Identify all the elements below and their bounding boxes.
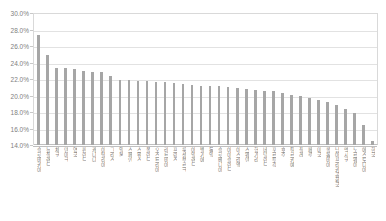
bar[interactable] (227, 87, 230, 145)
x-axis-tick-label: 캐나다 (90, 147, 96, 162)
y-axis-tick-label: 20.0% (11, 92, 29, 99)
x-axis-tick-label: 그리스 (108, 147, 114, 162)
y-axis-tick-label: 22.0% (11, 76, 29, 83)
x-axis-tick-label: 미국 (316, 147, 322, 157)
bar-slot (179, 13, 188, 145)
y-axis-tick-label: 30.0% (11, 10, 29, 17)
bar[interactable] (100, 72, 103, 145)
y-axis-tick-label: 18.0% (11, 109, 29, 116)
bar-slot (52, 13, 61, 145)
bar-slot (115, 13, 124, 145)
bar-series (33, 13, 378, 145)
bar[interactable] (218, 86, 221, 145)
x-axis-tick-label: 페루 (307, 147, 313, 157)
bar-slot (188, 13, 197, 145)
x-axis-tick-label: 튀르키예 (289, 147, 295, 167)
bar[interactable] (119, 80, 122, 145)
bar[interactable] (137, 81, 140, 145)
bar[interactable] (173, 83, 176, 145)
bar[interactable] (254, 90, 257, 145)
x-axis-tick-label: 체코 (54, 147, 60, 157)
bar[interactable] (344, 109, 347, 145)
bar[interactable] (281, 93, 284, 145)
bar[interactable] (46, 55, 49, 145)
bar-slot (106, 13, 115, 145)
x-label-slot: 아이슬란드 (224, 147, 233, 221)
x-axis-tick-label: 영국 (72, 147, 78, 157)
bar[interactable] (299, 96, 302, 145)
bar-slot (215, 13, 224, 145)
bar[interactable] (353, 113, 356, 145)
bar[interactable] (290, 95, 293, 145)
x-label-slot: 프랑스 (169, 147, 178, 221)
x-axis-tick-label: 에스토니아 (361, 147, 367, 172)
x-label-slot: 헝가리 (251, 147, 260, 221)
bar-slot (169, 13, 178, 145)
x-label-slot: 아일랜드 (188, 147, 197, 221)
bar-slot (151, 13, 160, 145)
x-axis-tick-label: 독일 (207, 147, 213, 157)
bar-slot (142, 13, 151, 145)
x-label-slot: 체코 (52, 147, 61, 221)
x-label-slot: 독일 (206, 147, 215, 221)
x-axis-tick-label: 일본 (117, 147, 123, 157)
x-label-slot: 라트비아 (160, 147, 169, 221)
x-label-slot: 핀란드 (79, 147, 88, 221)
x-label-slot: 노르웨이 (350, 147, 359, 221)
bar[interactable] (91, 72, 94, 145)
bar-slot (260, 13, 269, 145)
bar[interactable] (371, 141, 374, 145)
bar[interactable] (146, 81, 149, 145)
bar[interactable] (155, 82, 158, 145)
x-axis-tick-label: 칠레 (298, 147, 304, 157)
bar[interactable] (82, 71, 85, 145)
bar[interactable] (109, 76, 112, 145)
x-axis-tick-label: 콜롬비아 (325, 147, 331, 167)
bar[interactable] (73, 69, 76, 145)
bar[interactable] (55, 68, 58, 145)
x-label-slot: 뉴질랜드 (43, 147, 52, 221)
x-axis-tick-label: 아일랜드 (189, 147, 195, 167)
x-label-slot: 남아프리카공화국 (332, 147, 341, 221)
bar[interactable] (317, 100, 320, 145)
bar-slot (233, 13, 242, 145)
x-label-slot: 덴마크 (61, 147, 70, 221)
y-axis-tick-label: 14.0% (11, 142, 29, 149)
x-axis-tick-label: 포르투갈 (271, 147, 277, 167)
bar-slot (197, 13, 206, 145)
bar[interactable] (272, 91, 275, 145)
x-label-slot: 이스라엘 (233, 147, 242, 221)
bar[interactable] (263, 91, 266, 145)
bar[interactable] (335, 105, 338, 145)
bar-slot (88, 13, 97, 145)
bar[interactable] (128, 80, 131, 145)
bar[interactable] (209, 86, 212, 145)
bar[interactable] (200, 86, 203, 145)
y-axis-tick-label: 28.0% (11, 26, 29, 33)
bar[interactable] (64, 68, 67, 145)
bar[interactable] (326, 102, 329, 145)
bar[interactable] (308, 98, 311, 145)
bar[interactable] (164, 82, 167, 145)
bar-slot (133, 13, 142, 145)
x-label-slot: 캐나다 (88, 147, 97, 221)
bar[interactable] (191, 85, 194, 145)
bar[interactable] (37, 35, 40, 145)
bar-slot (79, 13, 88, 145)
x-label-slot: 슬로바키아 (34, 147, 43, 221)
x-label-slot: 포르투갈 (269, 147, 278, 221)
x-axis-tick-label: 남아프리카공화국 (334, 147, 340, 187)
bar-slot (350, 13, 359, 145)
bar[interactable] (245, 89, 248, 145)
x-axis-tick-label: 헝가리 (252, 147, 258, 162)
x-axis-tick-label: 아이슬란드 (225, 147, 231, 172)
bar[interactable] (236, 88, 239, 145)
x-label-slot: 한국 (368, 147, 377, 221)
bar-slot (70, 13, 79, 145)
bar-slot (314, 13, 323, 145)
x-label-slot: 스페인 (124, 147, 133, 221)
x-axis-labels: 슬로바키아뉴질랜드체코덴마크영국핀란드캐나다이탈리아그리스일본스페인스위스폴란드… (33, 147, 378, 221)
x-label-slot: 페루 (305, 147, 314, 221)
bar[interactable] (182, 84, 185, 145)
bar[interactable] (362, 125, 365, 145)
